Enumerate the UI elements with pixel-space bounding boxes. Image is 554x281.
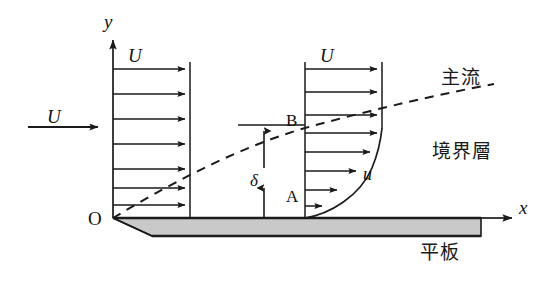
inlet-velocity-label: U — [47, 107, 61, 126]
left-velocity-profile — [113, 62, 190, 218]
local-velocity-label: u — [363, 165, 372, 183]
boundary-layer-figure: y x O U U U u δ A B 主流 境界層 平板 — [0, 0, 554, 281]
mainstream-label: 主流 — [441, 68, 481, 87]
origin-label: O — [88, 209, 102, 228]
left-velocity-label: U — [128, 46, 142, 65]
x-axis-label: x — [519, 198, 527, 217]
flat-plate-label: 平板 — [420, 243, 460, 262]
point-b-label: B — [286, 112, 297, 129]
delta-label: δ — [250, 172, 258, 189]
flat-plate — [113, 218, 481, 236]
y-axis-label: y — [104, 12, 112, 31]
right-velocity-label: U — [320, 46, 334, 65]
point-a-label: A — [286, 188, 298, 205]
right-velocity-profile — [305, 62, 382, 218]
boundary-layer-label: 境界層 — [432, 142, 492, 161]
